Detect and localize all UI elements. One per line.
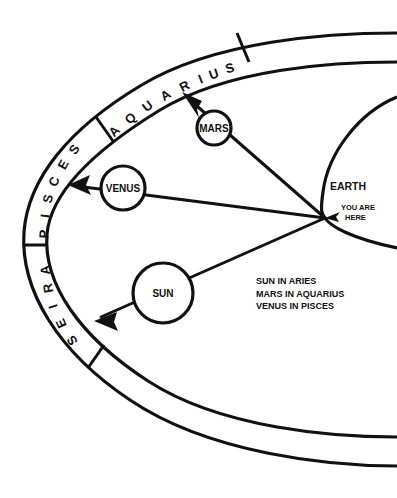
body-mars[interactable]: MARS (197, 111, 231, 145)
arrowhead-to-pisces (68, 175, 91, 195)
zodiac-diagram-canvas: A Q U A R I U S P I S C E S A R (0, 0, 397, 498)
sign-pisces: P I S C E S (36, 141, 83, 238)
you-are-here-label-line2: HERE (345, 213, 366, 222)
body-sun[interactable]: SUN (133, 263, 193, 323)
mars-label: MARS (199, 123, 229, 134)
sign-letter: R (177, 77, 193, 95)
sun-label: SUN (152, 288, 173, 299)
sign-letter: E (54, 157, 71, 172)
arrowhead-to-aquarius (182, 92, 202, 118)
sign-letter: S (40, 193, 57, 205)
sign-letter: U (207, 65, 221, 82)
zodiac-band-outer-arc (24, 33, 397, 466)
sign-letter: A (157, 86, 174, 104)
sign-letter: E (52, 316, 69, 330)
sign-letter: S (224, 60, 237, 77)
sign-letter: S (63, 333, 80, 349)
sign-letter: I (45, 302, 60, 310)
earth-label: EARTH (330, 180, 366, 192)
sign-letter: S (66, 141, 83, 157)
sign-letter: A (37, 264, 53, 276)
sign-letter: C (45, 174, 63, 189)
celestial-bodies: MARS VENUS SUN (101, 111, 231, 323)
body-venus[interactable]: VENUS (101, 166, 145, 210)
summary-line: MARS IN AQUARIUS (256, 289, 344, 299)
sign-letter: R (40, 282, 57, 295)
you-are-here-label-line1: YOU ARE (341, 203, 375, 212)
divider-aries-bottom (88, 345, 104, 368)
summary-line: SUN IN ARIES (256, 276, 316, 286)
earth-labels: EARTH YOU ARE HERE (325, 180, 375, 222)
sign-letter: U (139, 97, 156, 115)
sign-letter: I (196, 71, 205, 86)
venus-label: VENUS (106, 183, 141, 194)
summary-line: VENUS IN PISCES (256, 301, 334, 311)
earth-arc (322, 97, 397, 248)
placement-summary: SUN IN ARIES MARS IN AQUARIUS VENUS IN P… (256, 276, 344, 311)
zodiac-band: A Q U A R I U S P I S C E S A R (23, 33, 397, 466)
sign-letter: P (36, 229, 51, 239)
zodiac-diagram: A Q U A R I U S P I S C E S A R (0, 0, 397, 498)
